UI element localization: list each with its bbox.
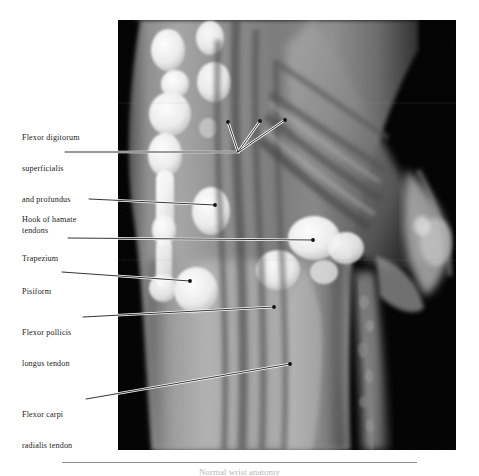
figure-caption: Normal wrist anatomy: [62, 467, 417, 476]
label-line: Flexor carpi: [22, 410, 72, 420]
label-line: superficialis: [22, 164, 80, 174]
scan-raster: [118, 20, 456, 450]
label-line: Flexor digitorum: [22, 133, 80, 143]
label-line: longus tendon: [22, 359, 71, 369]
label-line: Trapezium: [22, 254, 58, 264]
label-flexor-carpi-radialis: Flexor carpi radialis tendon: [22, 389, 72, 472]
caption-divider: [62, 462, 417, 463]
label-line: radialis tendon: [22, 441, 72, 451]
label-line: Hook of hamate: [22, 215, 76, 225]
label-line: Pisiform: [22, 287, 51, 297]
anatomy-figure: Flexor digitorum superficialis and profu…: [0, 0, 479, 476]
mri-scan-image: [118, 20, 456, 450]
label-line: Flexor pollicis: [22, 328, 71, 338]
label-flexor-pollicis-longus: Flexor pollicis longus tendon: [22, 307, 71, 390]
